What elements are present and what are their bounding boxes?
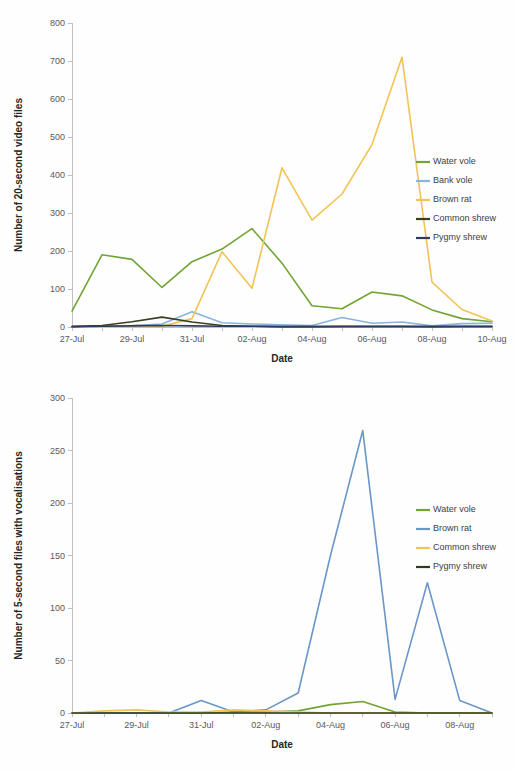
y-axis-title: Number of 20-second video files <box>13 98 24 252</box>
x-tick-label: 02-Aug <box>251 720 280 730</box>
series-line-bank-vole <box>72 312 492 326</box>
legend-label-pygmy-shrew: Pygmy shrew <box>433 232 488 242</box>
y-tick-label: 700 <box>50 56 65 66</box>
legend-label-common-shrew: Common shrew <box>433 542 497 552</box>
x-tick-label: 29-Jul <box>120 334 145 344</box>
legend: Water voleBrown ratCommon shrewPygmy shr… <box>416 504 497 571</box>
legend-label-brown-rat: Brown rat <box>433 523 472 533</box>
y-tick-label: 0 <box>60 322 65 332</box>
x-tick-label: 27-Jul <box>60 720 85 730</box>
legend-label-water-vole: Water vole <box>433 156 476 166</box>
chart-vocalisation-files: 05010015020025030027-Jul29-Jul31-Jul02-A… <box>0 385 514 770</box>
y-tick-label: 200 <box>50 498 65 508</box>
y-tick-label: 150 <box>50 551 65 561</box>
legend-label-bank-vole: Bank vole <box>433 175 473 185</box>
y-tick-label: 600 <box>50 94 65 104</box>
series-line-brown-rat <box>72 57 492 327</box>
x-tick-label: 31-Jul <box>180 334 205 344</box>
x-tick-label: 10-Aug <box>477 334 506 344</box>
video-files-chart: 010020030040050060070080027-Jul29-Jul31-… <box>0 0 514 385</box>
x-tick-label: 06-Aug <box>357 334 386 344</box>
x-tick-label: 04-Aug <box>316 720 345 730</box>
y-tick-label: 300 <box>50 393 65 403</box>
y-axis-title: Number of 5-second files with vocalisati… <box>13 451 24 660</box>
y-tick-label: 800 <box>50 18 65 28</box>
y-tick-label: 500 <box>50 132 65 142</box>
y-tick-label: 100 <box>50 603 65 613</box>
x-tick-label: 31-Jul <box>189 720 214 730</box>
y-tick-label: 50 <box>55 656 65 666</box>
legend-label-water-vole: Water vole <box>433 504 476 514</box>
legend-label-brown-rat: Brown rat <box>433 194 472 204</box>
figure-page: 010020030040050060070080027-Jul29-Jul31-… <box>0 0 514 770</box>
y-tick-label: 100 <box>50 284 65 294</box>
series-line-brown-rat <box>72 431 492 713</box>
y-tick-label: 250 <box>50 446 65 456</box>
x-axis-title: Date <box>271 353 293 364</box>
series-line-water-vole <box>72 229 492 322</box>
x-tick-label: 29-Jul <box>124 720 149 730</box>
legend-label-common-shrew: Common shrew <box>433 213 497 223</box>
x-tick-label: 27-Jul <box>60 334 85 344</box>
x-axis-title: Date <box>271 739 293 750</box>
x-tick-label: 08-Aug <box>417 334 446 344</box>
x-tick-label: 02-Aug <box>237 334 266 344</box>
x-tick-label: 04-Aug <box>297 334 326 344</box>
x-tick-label: 08-Aug <box>445 720 474 730</box>
x-tick-label: 06-Aug <box>381 720 410 730</box>
legend: Water voleBank voleBrown ratCommon shrew… <box>416 156 497 242</box>
y-tick-label: 0 <box>60 708 65 718</box>
y-tick-label: 400 <box>50 170 65 180</box>
y-tick-label: 300 <box>50 208 65 218</box>
legend-label-pygmy-shrew: Pygmy shrew <box>433 561 488 571</box>
y-tick-label: 200 <box>50 246 65 256</box>
chart-video-files: 010020030040050060070080027-Jul29-Jul31-… <box>0 0 514 385</box>
vocalisation-files-chart: 05010015020025030027-Jul29-Jul31-Jul02-A… <box>0 385 514 770</box>
